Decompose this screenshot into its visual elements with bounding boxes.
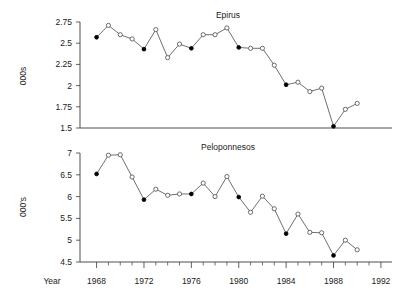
data-point-open bbox=[118, 153, 122, 157]
data-point-filled bbox=[284, 232, 288, 236]
data-point-open bbox=[213, 33, 217, 37]
data-point-open bbox=[272, 63, 276, 67]
data-point-open bbox=[248, 46, 252, 50]
chart-panel-epirus: Epirus2.752.52.2521.751.5000s bbox=[18, 10, 392, 133]
data-point-open bbox=[355, 248, 359, 252]
data-point-filled bbox=[142, 47, 146, 51]
data-point-open bbox=[308, 89, 312, 93]
data-point-filled bbox=[332, 124, 336, 128]
data-point-open bbox=[130, 175, 134, 179]
panel-title: Peloponnesos bbox=[201, 142, 255, 152]
data-point-open bbox=[320, 231, 324, 235]
x-tick-label: 1984 bbox=[277, 276, 296, 286]
y-axis-label: 000s bbox=[18, 67, 28, 85]
data-point-filled bbox=[95, 35, 99, 39]
panel-title: Epirus bbox=[216, 10, 240, 20]
y-axis-label: 000's bbox=[18, 197, 28, 217]
data-point-open bbox=[201, 33, 205, 37]
y-tick-label: 5 bbox=[67, 235, 72, 245]
data-point-filled bbox=[332, 254, 336, 258]
data-point-open bbox=[248, 210, 252, 214]
data-point-open bbox=[296, 80, 300, 84]
y-tick-label: 5.5 bbox=[60, 213, 72, 223]
y-tick-label: 4.5 bbox=[60, 257, 72, 267]
data-point-open bbox=[296, 212, 300, 216]
data-point-open bbox=[130, 37, 134, 41]
data-point-open bbox=[260, 46, 264, 50]
series-line bbox=[97, 155, 358, 256]
series-line bbox=[97, 25, 358, 126]
data-point-filled bbox=[95, 172, 99, 176]
data-point-open bbox=[166, 56, 170, 60]
y-tick-label: 1.5 bbox=[60, 123, 72, 133]
data-point-filled bbox=[284, 83, 288, 87]
x-tick-label: 1968 bbox=[87, 276, 106, 286]
two-panel-line-chart-figure: Epirus2.752.52.2521.751.5000sPeloponneso… bbox=[0, 0, 417, 303]
data-point-open bbox=[177, 42, 181, 46]
data-point-filled bbox=[237, 195, 241, 199]
data-point-open bbox=[343, 238, 347, 242]
data-point-open bbox=[272, 207, 276, 211]
x-tick-label: 1988 bbox=[324, 276, 343, 286]
data-point-open bbox=[343, 107, 347, 111]
x-tick-label: 1980 bbox=[229, 276, 248, 286]
data-point-open bbox=[308, 230, 312, 234]
x-tick-label: 1992 bbox=[371, 276, 390, 286]
data-point-open bbox=[225, 26, 229, 30]
y-tick-label: 1.75 bbox=[55, 102, 72, 112]
data-point-open bbox=[355, 101, 359, 105]
x-axis-label: Year bbox=[43, 276, 60, 286]
data-point-open bbox=[118, 33, 122, 37]
data-point-open bbox=[106, 23, 110, 27]
data-point-filled bbox=[189, 46, 193, 50]
data-point-open bbox=[225, 174, 229, 178]
data-point-open bbox=[260, 194, 264, 198]
y-tick-label: 7 bbox=[67, 148, 72, 158]
data-point-filled bbox=[189, 192, 193, 196]
chart-panel-peloponnesos: Peloponnesos76.565.554.5000's bbox=[18, 142, 392, 268]
data-point-open bbox=[213, 195, 217, 199]
data-point-open bbox=[154, 28, 158, 32]
x-tick-label: 1972 bbox=[135, 276, 154, 286]
y-tick-label: 6.5 bbox=[60, 170, 72, 180]
y-tick-label: 6 bbox=[67, 192, 72, 202]
x-tick-label: 1976 bbox=[182, 276, 201, 286]
data-point-open bbox=[166, 193, 170, 197]
data-point-open bbox=[106, 153, 110, 157]
y-tick-label: 2.5 bbox=[60, 38, 72, 48]
data-point-filled bbox=[237, 46, 241, 50]
data-point-open bbox=[320, 86, 324, 90]
data-point-open bbox=[201, 181, 205, 185]
data-point-filled bbox=[142, 198, 146, 202]
y-tick-label: 2.25 bbox=[55, 59, 72, 69]
data-point-open bbox=[154, 187, 158, 191]
chart-canvas: Epirus2.752.52.2521.751.5000sPeloponneso… bbox=[0, 0, 417, 303]
data-point-open bbox=[177, 192, 181, 196]
y-tick-label: 2 bbox=[67, 81, 72, 91]
y-tick-label: 2.75 bbox=[55, 17, 72, 27]
